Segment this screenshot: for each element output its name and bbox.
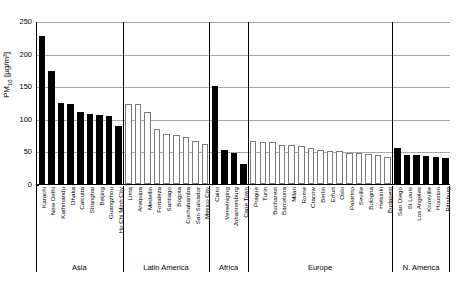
bar-slot <box>431 22 441 184</box>
bar <box>231 153 238 184</box>
y-tick-label: 150 <box>6 83 32 91</box>
region-divider <box>248 186 249 272</box>
bar-slot <box>229 22 239 184</box>
y-axis-tick-labels: 050100150200250 <box>4 0 32 295</box>
bar-slot <box>287 22 297 184</box>
bar-slot <box>220 22 230 184</box>
bar-slot <box>56 22 66 184</box>
y-tick-label: 0 <box>6 181 32 189</box>
bar <box>96 115 103 184</box>
bar <box>442 158 449 184</box>
bar-series <box>37 22 450 184</box>
bar <box>298 146 305 184</box>
city-label-slot: Beijing <box>94 186 104 256</box>
bar <box>183 137 190 184</box>
city-label-slot: Oslo <box>334 186 344 256</box>
y-tick-label: 50 <box>6 148 32 156</box>
bar <box>375 155 382 184</box>
bar-slot <box>441 22 451 184</box>
bar-slot <box>162 22 172 184</box>
city-label-slot: Ho Chi Minh City <box>113 186 123 256</box>
pm10-bar-chart: PM10 [µg/m³] 050100150200250 KarachiNew … <box>0 0 456 295</box>
city-label-slot: St Louis <box>402 186 412 256</box>
bar <box>288 145 295 184</box>
bar-slot <box>143 22 153 184</box>
bar <box>269 142 276 184</box>
bar <box>356 153 363 184</box>
bar-slot <box>66 22 76 184</box>
region-divider <box>209 186 210 272</box>
bar-slot <box>95 22 105 184</box>
bar-slot <box>268 22 278 184</box>
bar <box>77 112 84 184</box>
bar <box>308 148 315 185</box>
bar-slot <box>393 22 403 184</box>
city-label-slot: Prague <box>248 186 258 256</box>
bar-slot <box>402 22 412 184</box>
group-separator <box>209 22 210 185</box>
region-label: Asia <box>36 256 123 278</box>
bar <box>279 145 286 184</box>
city-label-slot: Bucharest <box>267 186 277 256</box>
city-label-slot: Berlin <box>315 186 325 256</box>
city-label-slot: Cracow <box>306 186 316 256</box>
region-band: AsiaLatin AmericaAfricaEuropeN. America <box>36 256 450 278</box>
bar-slot <box>345 22 355 184</box>
city-label-slot: Budapest <box>383 186 393 256</box>
bar <box>202 144 209 184</box>
group-separator <box>123 22 124 185</box>
bar-slot <box>277 22 287 184</box>
city-label-slot: New Delhi <box>46 186 56 256</box>
city-label-slot: Guangzhou <box>103 186 113 256</box>
city-label-slot: Milan <box>286 186 296 256</box>
city-label-slot: Palermo <box>344 186 354 256</box>
bar-slot <box>123 22 133 184</box>
bar-slot <box>296 22 306 184</box>
bar <box>135 104 142 184</box>
bar <box>58 103 65 185</box>
group-separator <box>248 22 249 185</box>
bar-slot <box>373 22 383 184</box>
bar <box>240 164 247 184</box>
bar-slot <box>316 22 326 184</box>
bar <box>413 155 420 184</box>
city-label-slot: Cape Town <box>238 186 248 256</box>
bar <box>115 126 122 184</box>
y-tick-label: 200 <box>6 51 32 59</box>
group-separator <box>392 22 393 185</box>
bar-slot <box>172 22 182 184</box>
bar <box>67 104 74 184</box>
bar-slot <box>191 22 201 184</box>
bar-slot <box>306 22 316 184</box>
city-label-slot: Rome <box>296 186 306 256</box>
city-label-slot: Erfurt <box>325 186 335 256</box>
bar-slot <box>248 22 258 184</box>
city-label-slot: Barcelona <box>277 186 287 256</box>
bar <box>48 71 55 184</box>
bar <box>394 148 401 184</box>
bar-slot <box>383 22 393 184</box>
bar-slot <box>335 22 345 184</box>
city-label-slot: Arequipa <box>132 186 142 256</box>
city-label-slot: Los Angeles <box>411 186 421 256</box>
bar-slot <box>152 22 162 184</box>
city-label-slot: San Salvador <box>190 186 200 256</box>
bar <box>154 129 161 184</box>
city-label-slot: Helsinki <box>373 186 383 256</box>
region-label: Africa <box>209 256 248 278</box>
y-tick-label: 100 <box>6 116 32 124</box>
region-divider <box>123 186 124 272</box>
city-label-slot: Bologna <box>363 186 373 256</box>
bar <box>346 153 353 184</box>
city-label-slot: Karachi <box>36 186 46 256</box>
bar <box>212 86 219 184</box>
bar <box>423 156 430 184</box>
city-label-slot: Seville <box>354 186 364 256</box>
bar-slot <box>133 22 143 184</box>
bar-slot <box>47 22 57 184</box>
bar-slot <box>210 22 220 184</box>
city-label-slot: Lima <box>123 186 133 256</box>
bar <box>192 141 199 184</box>
bar <box>173 135 180 184</box>
region-divider <box>392 186 393 272</box>
